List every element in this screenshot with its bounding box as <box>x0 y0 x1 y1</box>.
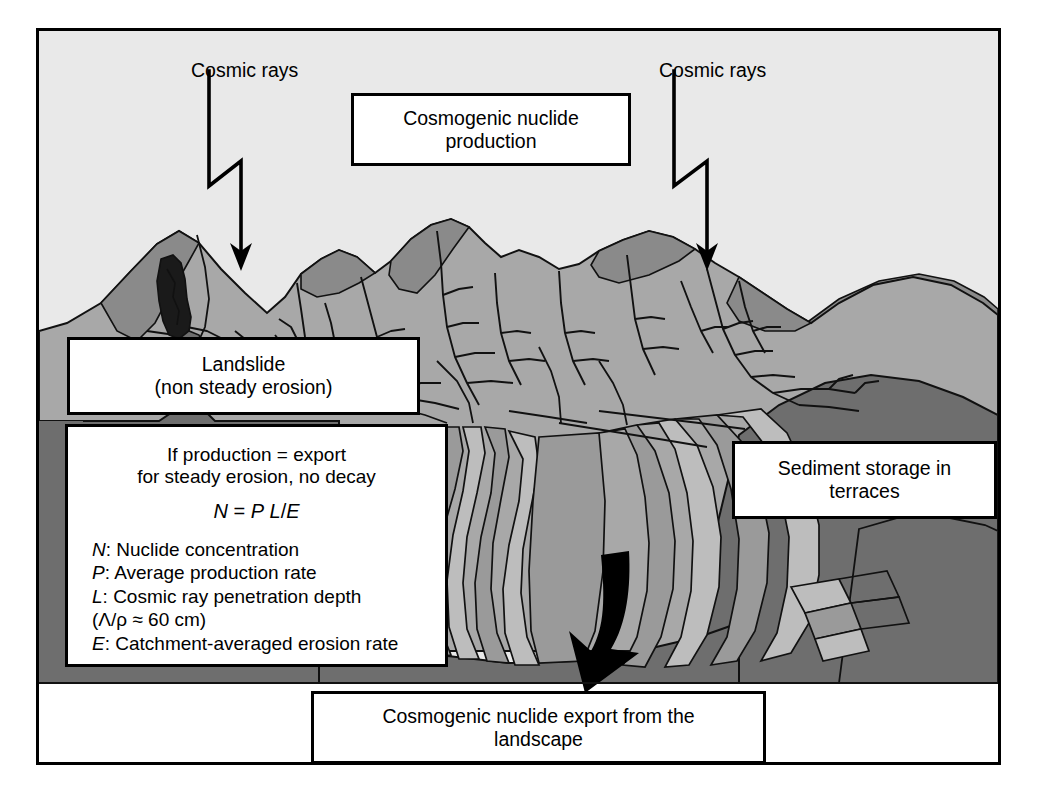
equation-formula: N = P L/E <box>68 500 445 523</box>
cosmogenic-production-box: Cosmogenic nuclide production <box>351 93 631 166</box>
cosmic-rays-label-left: Cosmic rays <box>191 59 298 82</box>
equation-definitions: N: Nuclide concentration P: Average prod… <box>68 537 445 656</box>
export-line-1: Cosmogenic nuclide export from the <box>382 705 694 728</box>
definition-text: (Λ/ρ ≈ 60 cm) <box>92 609 206 630</box>
formula-n: N <box>213 500 227 522</box>
landslide-line-1: Landslide <box>202 353 285 376</box>
definition-text: : Average production rate <box>105 562 317 583</box>
nuclide-export-box: Cosmogenic nuclide export from the lands… <box>311 691 766 764</box>
figure-frame: Cosmic rays Cosmic rays Cosmogenic nucli… <box>36 28 1001 765</box>
sediment-storage-box: Sediment storage in terraces <box>732 441 997 519</box>
definition-text: : Cosmic ray penetration depth <box>103 586 362 607</box>
production-line-2: production <box>445 130 536 153</box>
formula-e: E <box>286 500 299 522</box>
cosmic-rays-right-text: Cosmic rays <box>659 59 766 81</box>
export-line-2: landscape <box>494 728 583 751</box>
definition-text: : Catchment-averaged erosion rate <box>105 633 399 654</box>
definition-symbol: P <box>92 562 105 583</box>
equation-condition-2: for steady erosion, no decay <box>68 466 445 488</box>
cosmic-rays-left-text: Cosmic rays <box>191 59 298 81</box>
definition-row: (Λ/ρ ≈ 60 cm) <box>92 609 445 631</box>
definition-row: N: Nuclide concentration <box>92 539 445 561</box>
definition-symbol: L <box>92 586 103 607</box>
terraces-line-2: terraces <box>829 480 899 503</box>
equation-box: If production = export for steady erosio… <box>65 424 448 667</box>
landscape-scene: Cosmic rays Cosmic rays Cosmogenic nucli… <box>39 31 998 762</box>
terraces-line-1: Sediment storage in <box>778 457 951 480</box>
definition-symbol: N <box>92 539 106 560</box>
formula-l: L <box>270 500 281 522</box>
formula-p: P <box>251 500 264 522</box>
equation-condition-1: If production = export <box>68 444 445 466</box>
definition-symbol: E <box>92 633 105 654</box>
production-line-1: Cosmogenic nuclide <box>403 107 579 130</box>
channel-floor <box>529 433 605 663</box>
figure-root: Cosmic rays Cosmic rays Cosmogenic nucli… <box>0 0 1037 806</box>
landslide-line-2: (non steady erosion) <box>155 376 333 399</box>
landslide-box: Landslide (non steady erosion) <box>67 337 420 415</box>
definition-row: E: Catchment-averaged erosion rate <box>92 633 445 655</box>
cosmic-rays-label-right: Cosmic rays <box>659 59 766 82</box>
definition-row: P: Average production rate <box>92 562 445 584</box>
foreground-hill-right-lower <box>839 517 998 683</box>
definition-row: L: Cosmic ray penetration depth <box>92 586 445 608</box>
formula-equals: = <box>228 500 251 522</box>
definition-text: : Nuclide concentration <box>106 539 299 560</box>
